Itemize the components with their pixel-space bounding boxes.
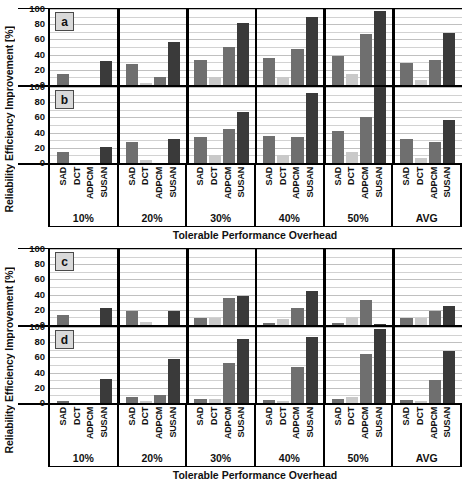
bar-c-40pct-adpcm (291, 308, 303, 325)
bar-groups-b (50, 87, 462, 163)
bar-c-50pct-dct (346, 317, 358, 325)
bar-group-d-20pct (119, 327, 188, 403)
y-axis-title-bottom: Reliability Efficiency Improvement [%] (0, 248, 18, 473)
x-tick-labels: SADDCTADPCMSUSAN (393, 405, 460, 450)
bar-b-AVG-adpcm (429, 142, 441, 163)
bar-group-d-40pct (256, 327, 325, 403)
x-tick-adpcm: ADPCM (290, 407, 302, 450)
bar-d-30pct-susan (237, 339, 249, 403)
chart-block-top: 100806040200 a 100806040200 b SADDCTADPC… (18, 8, 462, 241)
panel-b: 100806040200 b (18, 87, 462, 165)
x-tick-sad: SAD (332, 167, 344, 210)
bar-d-50pct-dct (346, 397, 358, 403)
bar-a-30pct-adpcm (223, 47, 235, 85)
y-tick-c-20: 20 (34, 305, 45, 315)
bar-d-20pct-susan (168, 359, 180, 403)
x-tick-dct: DCT (208, 167, 220, 210)
bar-d-20pct-dct (140, 401, 152, 403)
panel-badge-c: c (55, 252, 74, 271)
bar-group-b-50pct (325, 87, 394, 163)
bar-a-30pct-susan (237, 23, 249, 85)
x-tick-labels: SADDCTADPCMSUSAN (119, 165, 186, 210)
x-tick-susan: SUSAN (441, 167, 453, 210)
panel-d: 100806040200 d (18, 327, 462, 405)
x-axis-title-bottom: Tolerable Performance Overhead (48, 467, 462, 481)
bar-a-AVG-sad (400, 63, 412, 85)
x-tick-sad: SAD (194, 167, 206, 210)
panel-c: 100806040200 c (18, 248, 462, 327)
bar-a-20pct-susan (168, 42, 180, 85)
y-tick-c-60: 60 (34, 275, 45, 285)
x-axis-group-top-40pct: SADDCTADPCMSUSAN40% (256, 165, 325, 226)
x-tick-adpcm: ADPCM (428, 167, 440, 210)
x-tick-dct: DCT (277, 407, 289, 450)
bar-c-30pct-susan (237, 296, 249, 325)
x-tick-susan: SUSAN (304, 167, 316, 210)
panels-bottom: 100806040200 c 100806040200 d (18, 248, 462, 405)
y-tick-a-100: 100 (29, 4, 45, 14)
y-tick-d-20: 20 (34, 383, 45, 393)
y-tick-b-100: 100 (29, 82, 45, 92)
x-tick-dct: DCT (277, 167, 289, 210)
y-tick-b-80: 80 (34, 97, 45, 107)
x-tick-susan: SUSAN (98, 167, 110, 210)
bar-c-50pct-sad (332, 323, 344, 325)
y-axis-panel-c: 100806040200 (18, 249, 48, 325)
panel-badge-a: a (55, 12, 74, 31)
y-tick-b-0: 0 (40, 158, 45, 168)
x-axis-group-bottom-40pct: SADDCTADPCMSUSAN40% (256, 405, 325, 466)
x-tick-sad: SAD (126, 167, 138, 210)
bar-a-40pct-sad (263, 58, 275, 85)
x-axis-group-bottom-AVG: SADDCTADPCMSUSANAVG (393, 405, 460, 466)
x-tick-sad: SAD (400, 407, 412, 450)
x-tick-adpcm: ADPCM (428, 407, 440, 450)
bar-d-AVG-susan (443, 351, 455, 403)
y-tick-b-20: 20 (34, 143, 45, 153)
bar-a-30pct-sad (194, 60, 206, 85)
x-axis-group-top-50pct: SADDCTADPCMSUSAN50% (325, 165, 394, 226)
bar-group-c-50pct (325, 249, 394, 325)
bar-a-40pct-dct (277, 77, 289, 85)
x-tick-dct: DCT (345, 407, 357, 450)
x-group-label-20pct: 20% (119, 210, 186, 226)
bar-groups-c (50, 249, 462, 325)
x-tick-adpcm: ADPCM (359, 407, 371, 450)
bar-a-50pct-sad (332, 56, 344, 85)
x-tick-sad: SAD (57, 167, 69, 210)
bar-c-AVG-adpcm (429, 311, 441, 325)
bar-a-50pct-dct (346, 74, 358, 85)
bar-d-20pct-sad (126, 397, 138, 403)
x-group-label-50pct: 50% (325, 210, 392, 226)
x-tick-labels: SADDCTADPCMSUSAN (187, 405, 254, 450)
x-tick-dct: DCT (71, 167, 83, 210)
x-axis-group-bottom-10pct: SADDCTADPCMSUSAN10% (50, 405, 119, 466)
bar-c-40pct-susan (306, 291, 318, 325)
bar-a-50pct-susan (374, 11, 386, 85)
bar-group-c-20pct (119, 249, 188, 325)
bar-group-a-AVG (393, 9, 462, 85)
y-tick-a-20: 20 (34, 65, 45, 75)
bar-b-20pct-dct (140, 160, 152, 163)
x-group-label-10pct: 10% (50, 210, 117, 226)
bar-b-50pct-adpcm (360, 117, 372, 163)
bar-d-30pct-sad (194, 399, 206, 403)
y-tick-c-40: 40 (34, 290, 45, 300)
x-tick-susan: SUSAN (373, 167, 385, 210)
bar-a-30pct-dct (209, 77, 221, 85)
bar-b-40pct-dct (277, 155, 289, 163)
x-axis-group-top-20pct: SADDCTADPCMSUSAN20% (119, 165, 188, 226)
x-tick-labels: SADDCTADPCMSUSAN (325, 405, 392, 450)
bar-b-10pct-sad (57, 152, 69, 163)
y-tick-d-100: 100 (29, 322, 45, 332)
bar-group-a-50pct (325, 9, 394, 85)
y-tick-a-80: 80 (34, 19, 45, 29)
x-tick-labels: SADDCTADPCMSUSAN (187, 165, 254, 210)
bar-d-10pct-susan (100, 379, 112, 403)
bar-c-50pct-susan (374, 324, 386, 325)
x-tick-susan: SUSAN (235, 167, 247, 210)
bar-d-50pct-adpcm (360, 354, 372, 403)
bar-c-20pct-sad (126, 311, 138, 325)
x-tick-sad: SAD (263, 407, 275, 450)
bar-group-b-30pct (187, 87, 256, 163)
y-tick-a-40: 40 (34, 50, 45, 60)
